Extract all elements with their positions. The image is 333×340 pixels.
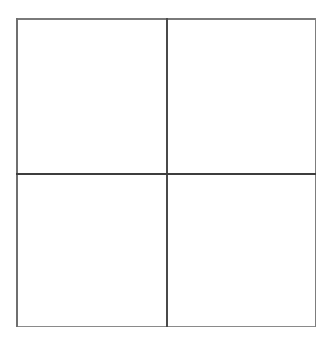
grid-cell-bottom-left[interactable] — [18, 175, 165, 324]
figure-canvas — [0, 0, 333, 340]
grid-cell-top-right[interactable] — [168, 20, 314, 172]
grid-cell-bottom-right[interactable] — [168, 175, 314, 324]
grid-frame — [16, 18, 316, 327]
grid-cell-top-left[interactable] — [18, 20, 165, 172]
